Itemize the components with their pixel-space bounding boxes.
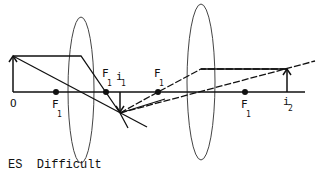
focal-label-1-sub: 1	[57, 110, 62, 119]
category-label: ES	[8, 158, 22, 172]
focal-label-4-sub: 1	[246, 110, 251, 119]
object-label: O	[10, 97, 17, 110]
focal-label-3-sub: 1	[159, 79, 164, 88]
focal-point-2	[103, 89, 109, 95]
focal-label-2-sub: 1	[107, 79, 112, 88]
focal-point-3	[155, 89, 161, 95]
two-lens-ray-diagram: O F 1 F 1 i 1 F 1 F 1 i 2	[0, 0, 320, 180]
image2-arrow	[283, 69, 291, 92]
lens-1	[68, 17, 94, 163]
image1-arrow	[116, 92, 124, 112]
difficulty-label: Difficult	[37, 158, 102, 172]
lens-2	[187, 4, 215, 160]
caption: ES Difficult	[8, 158, 102, 172]
image2-label-sub: 2	[288, 104, 293, 113]
focal-point-4	[242, 89, 248, 95]
object-arrow	[9, 56, 17, 92]
image1-label-sub: 1	[121, 79, 126, 88]
focal-point-1	[53, 89, 59, 95]
